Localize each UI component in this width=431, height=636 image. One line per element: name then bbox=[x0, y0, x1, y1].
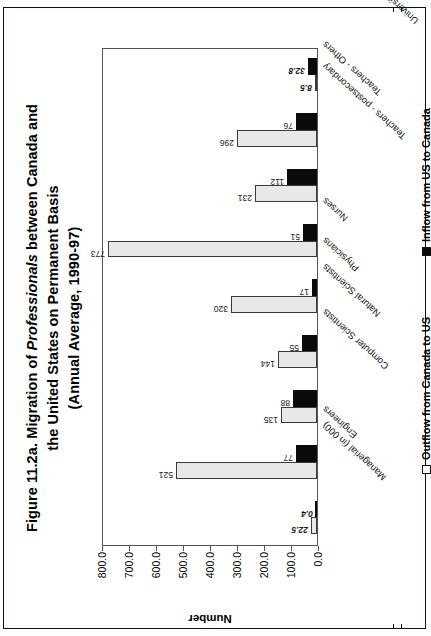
x-axis-category-label: Computer Scientists bbox=[320, 306, 391, 371]
y-axis-tick-label: 400.0 bbox=[204, 552, 216, 578]
bar-inflow[interactable] bbox=[308, 58, 317, 75]
x-axis-category-label: University graduates (in 000)* bbox=[320, 0, 420, 26]
title-line-3: (Annual Average, 1990-97) bbox=[64, 12, 85, 624]
y-axis-tick-label: 600.0 bbox=[150, 552, 162, 578]
bar-inflow[interactable] bbox=[303, 224, 317, 241]
bar-group: 8.532.8 bbox=[103, 47, 317, 102]
x-axis-category-labels: Managerial (in 000)EngineersComputer Sci… bbox=[318, 48, 414, 546]
bar-value-label: 55 bbox=[289, 343, 298, 353]
bar-value-label: 88 bbox=[280, 398, 289, 408]
title-text-part2: between Canada and bbox=[24, 104, 40, 254]
y-axis-tick-mark bbox=[264, 546, 265, 551]
y-axis-tick-mark bbox=[291, 546, 292, 551]
scanned-page: Figure 11.2a. Migration of Professionals… bbox=[0, 0, 431, 636]
legend-label-inflow: Inflow from US to Canada bbox=[420, 108, 431, 242]
legend-item-outflow[interactable]: Outflow from Canada to US bbox=[420, 317, 431, 474]
bar-inflow[interactable] bbox=[293, 390, 317, 407]
bar-value-label: 17 bbox=[299, 287, 308, 297]
bar-outflow[interactable] bbox=[310, 517, 316, 534]
bar-outflow[interactable] bbox=[280, 407, 316, 424]
y-axis-tick-mark bbox=[318, 546, 319, 551]
figure-title: Figure 11.2a. Migration of Professionals… bbox=[22, 12, 85, 624]
y-axis-tick-mark bbox=[129, 546, 130, 551]
bar-outflow[interactable] bbox=[278, 351, 317, 368]
y-axis-tick-label: 200.0 bbox=[258, 552, 270, 578]
x-axis-category-label: Nurses bbox=[320, 195, 350, 223]
y-axis-tick-mark bbox=[156, 546, 157, 551]
bar-value-label: 0.4 bbox=[300, 509, 312, 519]
y-axis-tick-mark bbox=[102, 546, 103, 551]
bar-group: 32017 bbox=[103, 268, 317, 323]
bar-outflow[interactable] bbox=[230, 296, 316, 313]
legend-label-outflow: Outflow from Canada to US bbox=[420, 317, 431, 460]
bar-inflow[interactable] bbox=[312, 279, 317, 296]
bar-outflow[interactable] bbox=[108, 241, 317, 258]
bar-value-label: 51 bbox=[290, 232, 299, 242]
bar-group: 231112 bbox=[103, 158, 317, 213]
y-axis-tick-mark bbox=[210, 546, 211, 551]
y-axis-tick-label: 700.0 bbox=[123, 552, 135, 578]
y-axis-tick-label: 300.0 bbox=[231, 552, 243, 578]
bar-group: 29676 bbox=[103, 102, 317, 157]
bar-outflow[interactable] bbox=[314, 75, 316, 92]
bar-value-label: 231 bbox=[237, 193, 251, 203]
bar-value-label: 773 bbox=[91, 249, 105, 259]
legend: Outflow from Canada to US Inflow from US… bbox=[416, 12, 431, 624]
bar-value-label: 320 bbox=[213, 304, 227, 314]
y-axis-tick-mark bbox=[237, 546, 238, 551]
bar-group: 52177 bbox=[103, 434, 317, 489]
bar-value-label: 112 bbox=[270, 177, 284, 187]
y-axis-tick-label: 0.0 bbox=[312, 552, 324, 567]
figure: Figure 11.2a. Migration of Professionals… bbox=[16, 12, 416, 624]
bar-value-label: 8.5 bbox=[299, 83, 311, 93]
bar-group: 13588 bbox=[103, 379, 317, 434]
y-axis-title: Number bbox=[102, 610, 318, 628]
bar-inflow[interactable] bbox=[315, 501, 317, 518]
legend-item-inflow[interactable]: Inflow from US to Canada bbox=[420, 108, 431, 256]
y-axis-title-text: Number bbox=[188, 613, 231, 625]
bar-value-label: 77 bbox=[283, 453, 292, 463]
y-axis-tick-label: 800.0 bbox=[96, 552, 108, 578]
y-axis-tick-label: 100.0 bbox=[285, 552, 297, 578]
title-text-part1: Figure 11.2a. Migration of bbox=[24, 351, 40, 533]
bar-inflow[interactable] bbox=[296, 113, 317, 130]
bar-outflow[interactable] bbox=[237, 130, 317, 147]
title-emphasis-professionals: Professionals bbox=[24, 254, 40, 350]
plot-area: 22.50.4521771358814455320177735123111229… bbox=[102, 48, 318, 546]
y-axis-tick-mark bbox=[183, 546, 184, 551]
bar-inflow[interactable] bbox=[296, 445, 317, 462]
title-line-2: the United States on Permanent Basis bbox=[43, 12, 64, 624]
bar-group: 77351 bbox=[103, 213, 317, 268]
rotated-figure-wrapper: Figure 11.2a. Migration of Professionals… bbox=[0, 0, 431, 636]
bar-value-label: 76 bbox=[284, 121, 293, 131]
bar-group: 22.50.4 bbox=[103, 490, 317, 545]
bar-outflow[interactable] bbox=[176, 462, 317, 479]
legend-swatch-inflow-icon bbox=[421, 247, 430, 256]
bar-inflow[interactable] bbox=[302, 335, 317, 352]
y-axis-tick-label: 500.0 bbox=[177, 552, 189, 578]
bar-group: 14455 bbox=[103, 324, 317, 379]
bar-value-label: 521 bbox=[159, 470, 173, 480]
bar-value-label: 144 bbox=[260, 359, 274, 369]
bar-value-label: 135 bbox=[263, 415, 277, 425]
bar-inflow[interactable] bbox=[286, 169, 316, 186]
y-axis: 800.0700.0600.0500.0400.0300.0200.0100.0… bbox=[102, 546, 318, 594]
bar-value-label: 296 bbox=[219, 138, 233, 148]
bar-value-label: 22.5 bbox=[291, 525, 308, 535]
bar-value-label: 32.8 bbox=[288, 66, 305, 76]
bar-outflow[interactable] bbox=[254, 185, 316, 202]
legend-swatch-outflow-icon bbox=[421, 465, 430, 474]
